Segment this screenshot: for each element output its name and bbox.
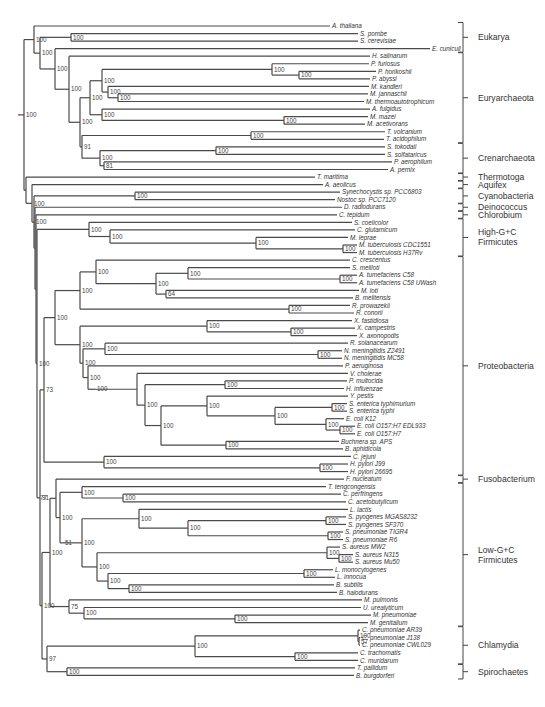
bootstrap-value: 100 [209,402,220,409]
bootstrap-value: 100 [330,532,341,539]
taxon-label: B. burgdorferi [356,672,395,680]
bootstrap-value: 100 [104,77,115,84]
group-label: Proteobacteria [478,361,534,371]
taxon-label: S. tokodaii [387,143,417,150]
bootstrap-value: 100 [163,422,174,429]
bootstrap-value: 100 [345,245,356,252]
group-bracket [458,211,468,218]
bootstrap-value: 100 [44,602,55,609]
bootstrap-value: 100 [141,515,152,522]
group-bracket [458,204,468,211]
bootstrap-value: 100 [301,71,312,78]
group-label: Eukarya [478,32,510,42]
bootstrap-value: 100 [42,49,53,56]
group-bracket [458,189,468,204]
bootstrap-value: 97 [49,655,57,662]
taxon-label: C. trachomatis [360,649,401,656]
bootstrap-value: 73 [46,386,54,393]
taxon-label: X. fastidiosa [353,317,389,324]
bootstrap-value: 100 [57,65,68,72]
group-bracket [458,627,468,664]
group-label: Chlamydia [478,640,519,650]
group-label: High-G+C [478,227,516,237]
group-bracket [458,53,468,143]
taxon-label: S. aureus N315 [355,551,399,558]
bootstrap-value: 100 [293,328,304,335]
bootstrap-value: 100 [36,218,47,225]
bootstrap-value: 100 [328,421,339,428]
taxon-label: P. horikoshii [378,68,412,75]
taxon-label: L. lactis [350,506,372,513]
bootstrap-value: 100 [99,563,110,570]
bootstrap-value: 100 [97,385,108,392]
taxon-label: M. loti [361,287,378,294]
taxon-label: E. coli O157:H7 [357,430,402,437]
bootstrap-value: 100 [131,585,142,592]
taxon-label: S. aureus Mu50 [355,558,400,565]
bootstrap-value: 100 [218,147,229,154]
group-label: Firmicutes [478,237,518,247]
bootstrap-value: 100 [227,381,238,388]
group-label: Crenarchaeota [478,153,535,163]
taxon-label: F. nucleatum [346,475,382,482]
bootstrap-value: 100 [69,668,80,675]
taxon-label: M. tuberculosis H37Rv [359,249,423,256]
bootstrap-value: 100 [106,458,117,465]
taxon-label: S. aureus MW2 [342,543,386,550]
group-bracket [458,219,468,256]
group-label: Chlorobium [478,210,522,220]
bootstrap-value: 100 [334,404,345,411]
bootstrap-value: 64 [168,290,176,297]
bootstrap-value: 100 [120,94,131,101]
bootstrap-value: 100 [36,36,47,43]
bootstrap-value: 100 [158,280,169,287]
bootstrap-value: 100 [86,609,97,616]
bootstrap-value: 100 [85,359,96,366]
bootstrap-value: 100 [329,549,340,556]
group-label: Cyanobacteria [478,191,534,201]
group-bracket [458,664,468,679]
group-label: Firmicutes [478,555,518,565]
bootstrap-value: 100 [26,111,37,118]
taxon-label: T. volcanium [387,128,422,135]
bootstrap-value: 100 [209,322,220,329]
bootstrap-value: 100 [342,275,353,282]
bootstrap-value: 100 [228,441,239,448]
bootstrap-value: 100 [147,401,158,408]
taxon-label: A. tumefaciens C58 UWash [358,279,437,286]
taxon-label: R. solanacearum [350,339,398,346]
bootstrap-value: 91 [84,143,92,150]
taxon-label: M. mazei [370,113,396,120]
taxon-label: E. coli K12 [346,415,377,422]
bootstrap-value: 100 [84,539,95,546]
taxon-label: D. radiodurans [344,203,386,210]
bootstrap-value: 51 [65,539,73,546]
bootstrap-value: 100 [82,341,93,348]
bootstrap-value: 81 [106,162,114,169]
bootstrap-value: 100 [297,653,308,660]
taxon-label: A. thaliana [331,22,362,29]
taxon-label: A. pernix [389,166,416,174]
bootstrap-value: 100 [274,66,285,73]
bootstrap-value: 100 [237,615,248,622]
bootstrap-value: 100 [197,642,208,649]
bootstrap-value: 100 [306,570,317,577]
bootstrap-value: 100 [258,239,269,246]
bootstrap-value: 100 [112,233,123,240]
taxon-label: V. cholerae [350,370,382,377]
bootstrap-value: 100 [110,577,121,584]
group-bracket [458,174,468,181]
bootstrap-value: 100 [57,314,68,321]
taxon-label: E. cuniculi [432,45,461,52]
bootstrap-value: 100 [341,555,352,562]
group-label: Aquifex [478,180,507,190]
taxon-label: L. innocua [337,573,367,580]
bootstrap-value: 100 [98,268,109,275]
bootstrap-value: 100 [91,226,102,233]
bootstrap-value: 100 [342,426,353,433]
taxon-label: S. coelicolor [354,219,389,226]
group-bracket [458,181,468,188]
taxon-label: R. conorii [356,309,383,316]
bootstrap-value: 100 [84,489,95,496]
bootstrap-value: 100 [125,494,136,501]
